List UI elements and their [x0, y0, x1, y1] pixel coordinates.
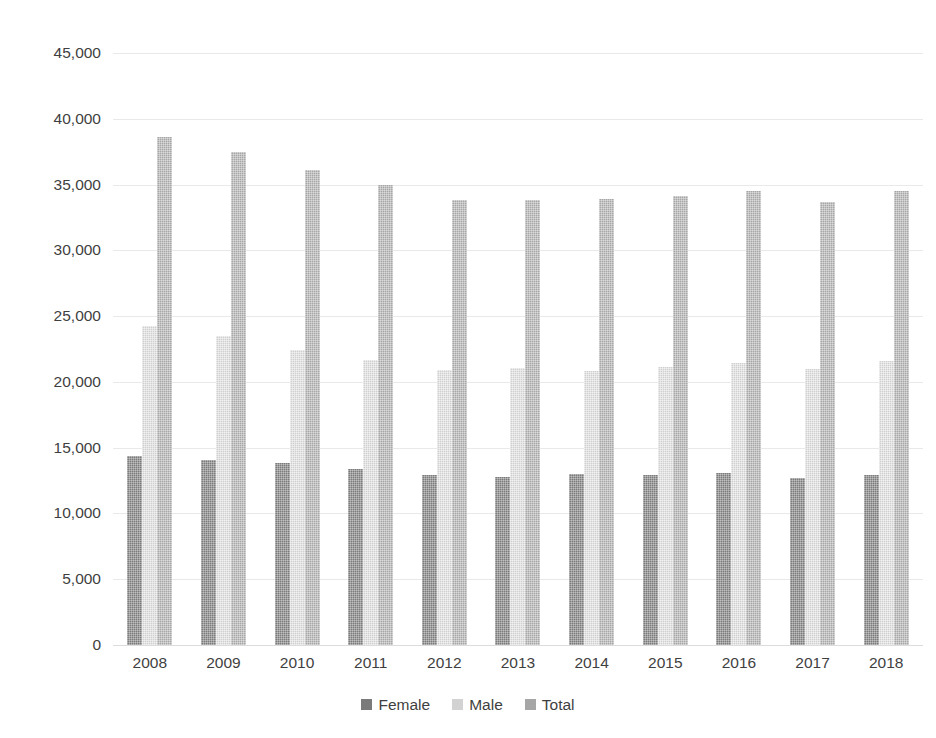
y-axis-tick-label: 40,000: [9, 111, 101, 127]
bar-total-2012[interactable]: [452, 200, 467, 645]
bar-group: [113, 53, 187, 645]
legend-swatch-icon: [361, 699, 372, 710]
bar-male-2018[interactable]: [879, 361, 894, 645]
legend-label: Total: [542, 697, 575, 713]
bar-group: [555, 53, 629, 645]
y-axis-tick-label: 25,000: [9, 308, 101, 324]
bar-total-2009[interactable]: [231, 152, 246, 645]
bar-total-2014[interactable]: [599, 199, 614, 645]
bar-chart: 05,00010,00015,00020,00025,00030,00035,0…: [0, 0, 936, 738]
bar-female-2014[interactable]: [569, 474, 584, 645]
bar-female-2016[interactable]: [716, 473, 731, 645]
bar-group: [481, 53, 555, 645]
bar-male-2008[interactable]: [142, 326, 157, 645]
legend-item-female[interactable]: Female: [361, 697, 430, 713]
bar-group: [187, 53, 261, 645]
bar-female-2018[interactable]: [864, 475, 879, 645]
legend-swatch-icon: [525, 699, 536, 710]
bar-male-2016[interactable]: [731, 363, 746, 645]
x-axis-tick-label: 2014: [555, 655, 629, 671]
y-axis-tick-label: 5,000: [9, 571, 101, 587]
bars-layer: [113, 53, 923, 645]
bar-female-2012[interactable]: [422, 475, 437, 645]
bar-female-2015[interactable]: [643, 475, 658, 645]
x-axis-tick-label: 2016: [702, 655, 776, 671]
bar-male-2013[interactable]: [510, 368, 525, 645]
bar-female-2013[interactable]: [495, 477, 510, 645]
legend-swatch-icon: [452, 699, 463, 710]
bar-total-2017[interactable]: [820, 202, 835, 645]
y-axis-tick-label: 0: [9, 637, 101, 653]
bar-male-2009[interactable]: [216, 336, 231, 645]
bar-total-2010[interactable]: [305, 170, 320, 645]
x-axis-tick-label: 2008: [113, 655, 187, 671]
x-axis-tick-label: 2012: [408, 655, 482, 671]
legend-label: Male: [469, 697, 503, 713]
bar-group: [702, 53, 776, 645]
bar-male-2011[interactable]: [363, 360, 378, 645]
x-axis-tick-label: 2015: [628, 655, 702, 671]
bar-female-2010[interactable]: [275, 463, 290, 645]
bar-group: [334, 53, 408, 645]
x-axis-tick-label: 2010: [260, 655, 334, 671]
y-axis-tick-label: 35,000: [9, 177, 101, 193]
legend-item-male[interactable]: Male: [452, 697, 503, 713]
gridline: [113, 645, 923, 646]
y-axis-tick-label: 45,000: [9, 45, 101, 61]
bar-female-2011[interactable]: [348, 469, 363, 645]
bar-total-2013[interactable]: [525, 200, 540, 645]
y-axis-tick-label: 20,000: [9, 374, 101, 390]
x-axis: 2008200920102011201220132014201520162017…: [113, 655, 923, 681]
bar-group: [628, 53, 702, 645]
x-axis-tick-label: 2017: [776, 655, 850, 671]
bar-total-2018[interactable]: [894, 191, 909, 645]
x-axis-tick-label: 2013: [481, 655, 555, 671]
x-axis-tick-label: 2011: [334, 655, 408, 671]
y-axis-tick-label: 15,000: [9, 440, 101, 456]
bar-group: [849, 53, 923, 645]
chart-legend: FemaleMaleTotal: [0, 697, 936, 713]
y-axis: 05,00010,00015,00020,00025,00030,00035,0…: [0, 53, 101, 645]
bar-male-2015[interactable]: [658, 367, 673, 645]
bar-male-2014[interactable]: [584, 371, 599, 645]
x-axis-tick-label: 2009: [187, 655, 261, 671]
bar-total-2008[interactable]: [157, 137, 172, 645]
y-axis-tick-label: 30,000: [9, 242, 101, 258]
bar-female-2008[interactable]: [127, 456, 142, 645]
legend-item-total[interactable]: Total: [525, 697, 575, 713]
bar-group: [408, 53, 482, 645]
bar-female-2009[interactable]: [201, 460, 216, 645]
y-axis-tick-label: 10,000: [9, 505, 101, 521]
bar-male-2012[interactable]: [437, 370, 452, 645]
bar-group: [260, 53, 334, 645]
legend-label: Female: [378, 697, 430, 713]
bar-male-2017[interactable]: [805, 369, 820, 645]
bar-female-2017[interactable]: [790, 478, 805, 645]
x-axis-tick-label: 2018: [849, 655, 923, 671]
bar-total-2016[interactable]: [746, 191, 761, 645]
bar-male-2010[interactable]: [290, 350, 305, 645]
bar-total-2015[interactable]: [673, 196, 688, 645]
bar-total-2011[interactable]: [378, 185, 393, 645]
bar-group: [776, 53, 850, 645]
